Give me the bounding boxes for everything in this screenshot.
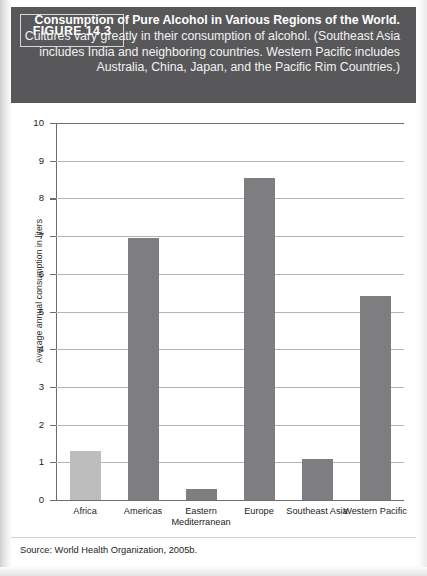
- figure-caption-description: Cultures vary greatly in their consumpti…: [25, 29, 400, 75]
- gridline-3: [56, 387, 404, 388]
- gridline-9: [56, 161, 404, 162]
- x-label-africa: Africa: [52, 506, 118, 517]
- bar-eastern-mediterranean: [186, 489, 217, 500]
- bar-southeast-asia: [302, 459, 333, 500]
- y-tick-label-2: 2: [16, 419, 44, 430]
- figure-page: FIGURE 14.3 Consumption of Pure Alcohol …: [0, 0, 427, 576]
- gridline-0: [56, 500, 404, 501]
- page-edge-shadow-bottom: [0, 567, 427, 576]
- bar-americas: [128, 238, 159, 500]
- gridline-2: [56, 425, 404, 426]
- y-tick-label-10: 10: [16, 117, 44, 128]
- x-label-western-pacific: Western Pacific: [342, 506, 408, 517]
- y-tick-label-4: 4: [16, 343, 44, 354]
- y-tick-label-9: 9: [16, 155, 44, 166]
- gridline-5: [56, 312, 404, 313]
- x-label-americas: Americas: [110, 506, 176, 517]
- gridline-1: [56, 462, 404, 463]
- y-tick-label-0: 0: [16, 494, 44, 505]
- x-label-eastern-mediterranean: Eastern Mediterranean: [168, 506, 234, 529]
- bar-chart: Average annual consumption in liters 109…: [11, 104, 416, 566]
- y-tick-label-3: 3: [16, 381, 44, 392]
- bar-africa: [70, 451, 101, 500]
- x-label-europe: Europe: [226, 506, 292, 517]
- gridline-4: [56, 349, 404, 350]
- page-edge-shadow-left: [0, 0, 11, 576]
- chart-container: Average annual consumption in liters 109…: [11, 104, 416, 566]
- figure-header-banner: FIGURE 14.3 Consumption of Pure Alcohol …: [11, 7, 416, 103]
- x-label-southeast-asia: Southeast Asia: [284, 506, 350, 517]
- gridline-8: [56, 198, 404, 199]
- source-note: Source: World Health Organization, 2005b…: [20, 545, 197, 555]
- gridline-7: [56, 236, 404, 237]
- plot-area: [56, 123, 404, 500]
- y-tick-label-7: 7: [16, 230, 44, 241]
- page-edge-shadow-right: [419, 0, 427, 576]
- figure-caption: Consumption of Pure Alcohol in Various R…: [11, 13, 408, 76]
- figure-caption-title: Consumption of Pure Alcohol in Various R…: [35, 13, 401, 27]
- bar-western-pacific: [360, 296, 391, 500]
- y-tick-label-6: 6: [16, 268, 44, 279]
- y-tick-label-8: 8: [16, 192, 44, 203]
- y-axis-title: Average annual consumption in liters: [34, 171, 44, 411]
- y-tick-label-1: 1: [16, 456, 44, 467]
- bar-europe: [244, 178, 275, 500]
- source-divider: [11, 537, 416, 538]
- gridline-6: [56, 274, 404, 275]
- y-tick-label-5: 5: [16, 306, 44, 317]
- gridline-10: [56, 123, 404, 124]
